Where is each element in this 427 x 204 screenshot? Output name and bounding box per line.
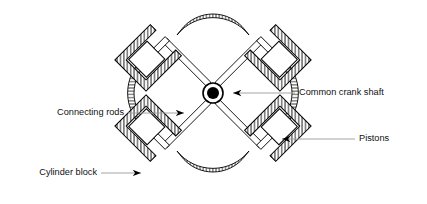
label-pistons: Pistons [359, 133, 390, 143]
label-connecting-rods: Connecting rods [57, 107, 124, 117]
engine-diagram: Common crank shaft Connecting rods Pisto… [0, 0, 427, 204]
label-cylinder-block: Cylinder block [39, 167, 97, 177]
crank-journal-icon [207, 87, 219, 99]
diagram-canvas: Common crank shaft Connecting rods Pisto… [0, 0, 427, 204]
common-crank-shaft-hub [203, 83, 223, 103]
label-common-crank-shaft: Common crank shaft [299, 87, 384, 97]
